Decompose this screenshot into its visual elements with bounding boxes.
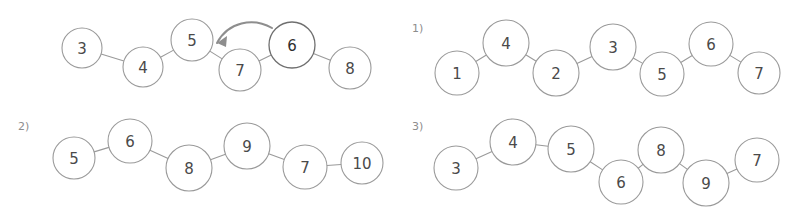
edge-4-5 [536,145,548,146]
node-value-label: 1 [452,65,462,83]
graph-node-8[interactable]: 8 [638,127,684,173]
graph-node-5[interactable]: 5 [171,19,213,61]
node-value-label: 4 [138,59,148,77]
node-value-label: 7 [235,62,245,80]
graph-node-7[interactable]: 7 [738,52,780,94]
node-value-label: 6 [706,36,716,54]
edge-4-2 [526,55,537,61]
edge-3-5 [633,58,643,63]
node-value-label: 5 [566,141,576,159]
edge-5-7 [210,51,222,59]
graph-node-6[interactable]: 6 [269,22,315,68]
edge-4-5 [161,50,174,57]
graph-node-7[interactable]: 7 [219,49,261,91]
node-value-label: 6 [287,37,297,55]
node-value-label: 5 [187,32,197,50]
graph-node-4[interactable]: 4 [490,119,536,165]
edge-8-9 [680,164,688,170]
graph-node-10[interactable]: 10 [341,142,383,184]
node-value-label: 7 [300,159,310,177]
node-value-label: 6 [125,133,135,151]
edge-8-9 [211,154,226,160]
node-value-label: 4 [508,134,518,152]
graph-node-2[interactable]: 2 [533,50,579,96]
graph-node-8[interactable]: 8 [329,47,371,89]
graph-node-6[interactable]: 6 [599,160,643,204]
graph-node-5[interactable]: 5 [548,126,594,172]
node-value-label: 8 [656,142,666,160]
node-value-label: 7 [754,65,764,83]
graph-node-7[interactable]: 7 [283,145,327,189]
panel-index-label: 3) [412,120,423,133]
node-value-label: 8 [184,160,194,178]
panel-2: 2)5689710 [18,119,383,191]
graph-node-3[interactable]: 3 [434,146,478,190]
edge-5-6 [681,55,692,62]
panel-index-label: 1) [412,22,423,35]
edge-3-4 [476,152,492,159]
panel-3: 3)3456897 [412,119,779,206]
panel-1: 1)1423567 [412,20,780,96]
graph-node-5[interactable]: 5 [53,137,95,179]
node-value-label: 7 [752,152,762,170]
edge-9-7 [727,169,737,174]
edge-6-8 [150,150,168,158]
node-value-label: 10 [352,155,371,173]
edge-2-3 [577,57,592,64]
node-value-label: 6 [616,174,626,192]
edge-7-10 [327,164,341,165]
node-value-label: 4 [501,35,511,53]
edge-6-8 [638,164,643,168]
graph-node-8[interactable]: 8 [166,145,212,191]
edge-6-8 [313,53,330,60]
node-value-label: 9 [242,138,252,156]
node-value-label: 5 [69,150,79,168]
graph-node-9[interactable]: 9 [224,123,270,169]
graph-node-9[interactable]: 9 [683,160,729,206]
node-value-label: 3 [77,40,87,58]
graph-node-4[interactable]: 4 [123,47,163,87]
edge-9-7 [269,154,285,160]
edge-5-6 [94,147,109,152]
graph-node-4[interactable]: 4 [483,20,529,66]
edge-5-6 [590,162,602,170]
node-value-label: 5 [657,66,667,84]
panel-index-label: 2) [18,120,29,133]
graph-node-7[interactable]: 7 [735,138,779,182]
edge-7-6 [259,55,271,61]
graph-node-6[interactable]: 6 [108,119,152,163]
edge-6-7 [730,55,741,62]
edge-3-4 [101,54,124,61]
panel-main: 345768 [62,19,371,91]
node-value-label: 9 [701,175,711,193]
edge-1-4 [476,55,487,62]
graph-node-3[interactable]: 3 [590,24,636,70]
node-value-label: 3 [608,39,618,57]
graph-node-1[interactable]: 1 [435,51,479,95]
node-chain-diagram: 3457681)14235672)56897103)3456897 [0,0,791,213]
node-value-label: 2 [551,65,561,83]
move-6-left-arrow [217,22,272,47]
graph-node-6[interactable]: 6 [689,22,733,66]
diagram-canvas: 3457681)14235672)56897103)3456897 [0,0,791,213]
node-value-label: 8 [345,60,355,78]
node-value-label: 3 [451,160,461,178]
graph-node-5[interactable]: 5 [640,52,684,96]
graph-node-3[interactable]: 3 [62,28,102,68]
